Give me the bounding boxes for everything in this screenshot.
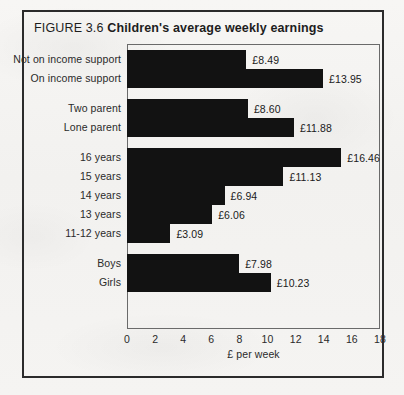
- bar-category-label: 14 years: [1, 186, 121, 205]
- bar-category-label: Girls: [1, 273, 121, 292]
- bar-value-label: £16.46: [347, 152, 380, 164]
- bar-value-label: £6.94: [231, 190, 258, 202]
- x-axis-tick-label: 2: [152, 333, 158, 345]
- bar-value-label: £8.60: [254, 103, 281, 115]
- bar-category-label: Two parent: [1, 99, 121, 118]
- x-axis: 024681012141618 £ per week: [127, 329, 380, 363]
- bar-category-label: On income support: [1, 69, 121, 88]
- bar-value-label: £3.09: [176, 228, 203, 240]
- bar-row: 15 years£11.13: [127, 167, 380, 186]
- bar-category-label: 13 years: [1, 205, 121, 224]
- bar-value-label: £7.98: [245, 258, 272, 270]
- bar: [127, 167, 283, 186]
- bar: [127, 69, 323, 88]
- bar-value-label: £6.06: [218, 209, 245, 221]
- bar-row: Two parent£8.60: [127, 99, 380, 118]
- bar-category-label: Lone parent: [1, 118, 121, 137]
- x-axis-tick-label: 0: [124, 333, 130, 345]
- figure-title: FIGURE 3.6 Children's average weekly ear…: [34, 21, 324, 35]
- bar-category-label: 15 years: [1, 167, 121, 186]
- x-axis-tick-label: 16: [346, 333, 358, 345]
- bar-category-label: Boys: [1, 254, 121, 273]
- chart-plot-area: Not on income support£8.49On income supp…: [127, 44, 380, 329]
- bar-row: 16 years£16.46: [127, 148, 380, 167]
- bar-row: 13 years£6.06: [127, 205, 380, 224]
- bar: [127, 254, 239, 273]
- bar-value-label: £10.23: [277, 277, 310, 289]
- bar: [127, 205, 212, 224]
- bar-row: Girls£10.23: [127, 273, 380, 292]
- bar: [127, 50, 246, 69]
- bar-value-label: £11.13: [289, 171, 321, 183]
- bar: [127, 148, 341, 167]
- bar-row: Lone parent£11.88: [127, 118, 380, 137]
- bar-row: 11-12 years£3.09: [127, 224, 380, 243]
- figure-title-text: Children's average weekly earnings: [107, 21, 324, 35]
- x-axis-tick-label: 18: [374, 333, 386, 345]
- bar-row: On income support£13.95: [127, 69, 380, 88]
- x-axis-tick-label: 6: [208, 333, 214, 345]
- bar-category-label: 11-12 years: [1, 224, 121, 243]
- x-axis-tick-label: 4: [180, 333, 186, 345]
- figure-number: FIGURE 3.6: [34, 21, 104, 35]
- bar: [127, 273, 271, 292]
- bar-category-label: 16 years: [1, 148, 121, 167]
- bar-value-label: £13.95: [329, 73, 362, 85]
- bar-value-label: £8.49: [252, 54, 279, 66]
- figure-card: FIGURE 3.6 Children's average weekly ear…: [22, 10, 384, 378]
- bar: [127, 118, 294, 137]
- bar-category-label: Not on income support: [1, 50, 121, 69]
- bar-rows-container: Not on income support£8.49On income supp…: [127, 44, 380, 329]
- x-axis-label: £ per week: [127, 348, 380, 360]
- bar: [127, 186, 225, 205]
- bar-row: 14 years£6.94: [127, 186, 380, 205]
- bar-row: Not on income support£8.49: [127, 50, 380, 69]
- x-axis-tick-label: 12: [290, 333, 302, 345]
- x-axis-tick-label: 10: [262, 333, 274, 345]
- bar-value-label: £11.88: [300, 122, 332, 134]
- bar-row: Boys£7.98: [127, 254, 380, 273]
- x-axis-tick-label: 14: [318, 333, 330, 345]
- bar: [127, 224, 170, 243]
- x-axis-tick-label: 8: [236, 333, 242, 345]
- bar: [127, 99, 248, 118]
